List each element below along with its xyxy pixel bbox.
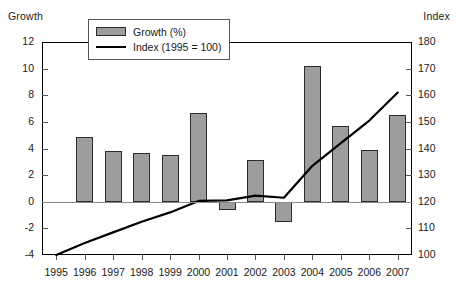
right-tick-label: 180 [418,35,448,47]
legend-label-growth: Growth (%) [133,26,186,38]
left-tick-label: 4 [8,142,34,154]
left-tick-label: 12 [8,35,34,47]
x-tick-mark [398,255,399,260]
legend-line-swatch-icon [96,46,126,48]
right-axis-title: Index [423,10,450,22]
legend-item-growth: Growth (%) [96,24,221,39]
left-tick-label: -4 [8,248,34,260]
x-tick-mark [170,255,171,260]
left-tick-label: 8 [8,88,34,100]
x-tick-mark [284,255,285,260]
right-tick-label: 170 [418,62,448,74]
x-tick-mark [255,255,256,260]
index-line-path [56,93,398,255]
legend-item-index: Index (1995 = 100) [96,39,221,54]
chart-container: Growth Index 121086420-2-4 1801701601501… [0,0,458,292]
x-tick-label: 2007 [378,266,418,278]
legend-bar-swatch-icon [96,27,126,36]
left-axis-title: Growth [8,10,43,22]
right-tick-label: 150 [418,115,448,127]
x-tick-mark [142,255,143,260]
x-tick-mark [85,255,86,260]
x-tick-mark [312,255,313,260]
left-tick-label: -2 [8,221,34,233]
x-tick-mark [199,255,200,260]
x-tick-mark [113,255,114,260]
left-tick-label: 10 [8,62,34,74]
zero-baseline [42,202,412,203]
left-tick-label: 6 [8,115,34,127]
left-tick-label: 2 [8,168,34,180]
left-tick-label: 0 [8,195,34,207]
right-tick-label: 130 [418,168,448,180]
right-tick-label: 160 [418,88,448,100]
x-tick-mark [227,255,228,260]
index-line-series [42,42,412,255]
x-tick-mark [341,255,342,260]
right-tick-label: 110 [418,221,448,233]
legend: Growth (%) Index (1995 = 100) [88,19,230,60]
x-tick-mark [369,255,370,260]
right-tick-label: 140 [418,142,448,154]
right-tick-label: 120 [418,195,448,207]
right-tick-label: 100 [418,248,448,260]
legend-label-index: Index (1995 = 100) [133,41,221,53]
